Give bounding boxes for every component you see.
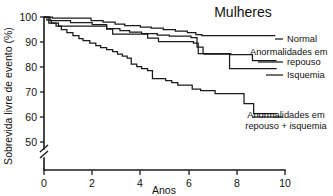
x-tick-label-0: 0: [41, 177, 47, 189]
x-tick-label-6: 6: [186, 177, 192, 189]
curves-group: [44, 17, 277, 114]
y-tick-label-100: 100: [19, 11, 37, 23]
legend-label-isquemia: Isquemia: [287, 70, 326, 80]
y-tick-label-80: 80: [25, 61, 37, 73]
legend-label-repouso-line1: Anormalidades em: [250, 47, 328, 57]
x-tick-label-2: 2: [89, 177, 95, 189]
legend-label-repouso-isquemia-line2: repouso + isquemia: [245, 121, 327, 131]
legend-label-repouso-isquemia-line1: Anormalidades em: [247, 110, 325, 120]
curve-isquemia: [44, 17, 277, 69]
y-tick-group: 100 90 80 70 60 50: [19, 11, 44, 148]
plot-title: Mulheres: [214, 4, 272, 20]
curve-repouso-mais-isquemia: [44, 17, 277, 114]
y-axis-title: Sobrevida livre de evento (%): [2, 27, 14, 165]
y-tick-label-70: 70: [25, 86, 37, 98]
y-tick-label-90: 90: [25, 36, 37, 48]
x-tick-label-4: 4: [137, 177, 143, 189]
y-tick-label-60: 60: [25, 111, 37, 123]
legend-label-repouso-line2: repouso: [287, 57, 321, 67]
x-tick-label-10: 10: [279, 177, 291, 189]
legend-label-normal: Normal: [287, 34, 317, 44]
y-tick-label-50: 50: [25, 136, 37, 148]
kaplan-meier-chart: 100 90 80 70 60 50 0 2 4 6 8 10 Anos Sob…: [0, 0, 333, 196]
x-tick-label-8: 8: [234, 177, 240, 189]
chart-canvas: 100 90 80 70 60 50 0 2 4 6 8 10 Anos Sob…: [0, 0, 333, 196]
x-axis-title: Anos: [152, 184, 176, 196]
legend-group: Normal Anormalidades em repouso Isquemia…: [245, 34, 327, 131]
axis-group: [40, 17, 285, 170]
